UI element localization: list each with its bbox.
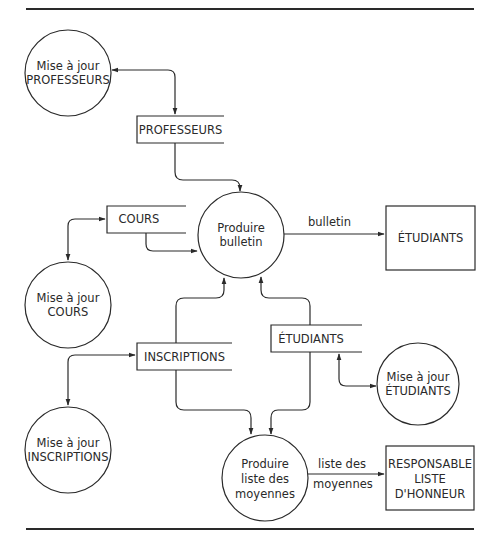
- label-line: D'HONNEUR: [386, 487, 474, 502]
- entity-responsable-label: RESPONSABLE LISTE D'HONNEUR: [386, 457, 474, 502]
- label-line: ÉTUDIANTS: [377, 384, 459, 398]
- datastore-professeurs-label: PROFESSEURS: [137, 123, 224, 137]
- process-maj-etudiants-label: Mise à jour ÉTUDIANTS: [377, 370, 459, 398]
- label-line: PROFESSEURS: [25, 73, 111, 87]
- label-line: Produire: [222, 457, 308, 472]
- label-line: Mise à jour: [25, 291, 111, 305]
- process-maj-cours-label: Mise à jour COURS: [25, 291, 111, 319]
- process-produire-bulletin-label: Produire bulletin: [198, 221, 284, 249]
- label-line: COURS: [25, 305, 111, 319]
- datastore-inscriptions-label: INSCRIPTIONS: [137, 350, 232, 364]
- flow-cours-store-bulletin: [146, 233, 197, 251]
- label-line: liste des: [222, 472, 308, 487]
- label-line: LISTE: [386, 472, 474, 487]
- datastore-cours-label: COURS: [107, 212, 171, 226]
- label-line: INSCRIPTIONS: [25, 450, 111, 464]
- entity-etudiants-label: ÉTUDIANTS: [386, 231, 475, 245]
- data-flow-diagram: Mise à jour PROFESSEURS Produire bulleti…: [0, 0, 496, 550]
- process-maj-inscriptions-label: Mise à jour INSCRIPTIONS: [25, 436, 111, 464]
- flow-maj-etud-store: [339, 354, 376, 386]
- flow-prof-store-bulletin: [175, 143, 240, 191]
- flow-etud-store-liste: [271, 352, 310, 434]
- flow-etud-store-bulletin: [261, 277, 310, 325]
- flow-label-bulletin: bulletin: [308, 215, 351, 229]
- label-line: Produire: [198, 221, 284, 235]
- label-line: RESPONSABLE: [386, 457, 474, 472]
- process-maj-professeurs-label: Mise à jour PROFESSEURS: [25, 59, 111, 87]
- flow-maj-insc-store: [68, 355, 135, 405]
- label-line: Mise à jour: [25, 59, 111, 73]
- datastore-etudiants-label: ÉTUDIANTS: [271, 332, 351, 346]
- label-line: moyennes: [222, 487, 308, 502]
- flow-insc-store-liste: [176, 370, 251, 434]
- flow-maj-prof-store: [112, 70, 175, 114]
- flow-label-moyennes: moyennes: [313, 477, 373, 491]
- flow-maj-cours-store: [68, 219, 105, 260]
- label-line: Mise à jour: [25, 436, 111, 450]
- label-line: Mise à jour: [377, 370, 459, 384]
- label-line: bulletin: [198, 235, 284, 249]
- flow-label-liste-des: liste des: [318, 457, 366, 471]
- process-produire-liste-label: Produire liste des moyennes: [222, 457, 308, 502]
- flow-insc-store-bulletin: [176, 278, 224, 343]
